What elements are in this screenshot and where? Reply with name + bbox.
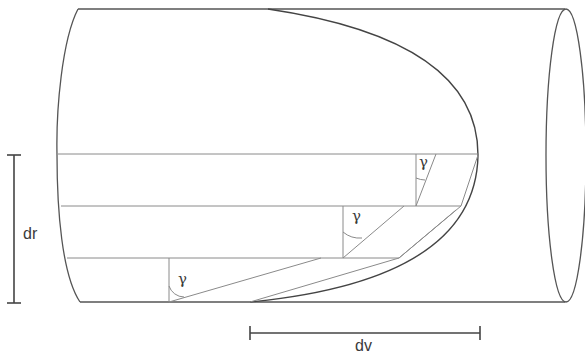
dv-label: dv (355, 337, 372, 355)
dr-dimension (7, 155, 21, 303)
gamma-angle-label-middle: γ (352, 207, 361, 225)
gamma-angle-label-top: γ (419, 153, 428, 171)
cylinder-end-ellipse (546, 9, 585, 302)
pipe-flow-diagram (0, 0, 585, 357)
layer-lines (58, 154, 478, 258)
gamma-angle-label-bottom: γ (178, 270, 187, 288)
shear-triangles (169, 154, 478, 302)
dr-label: dr (23, 225, 37, 243)
